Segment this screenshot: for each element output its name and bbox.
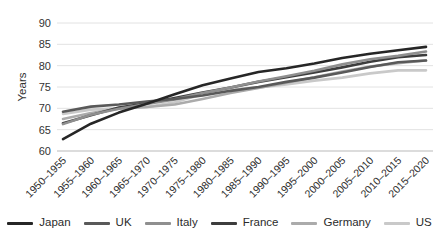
y-tick-label: 85 [39,38,51,50]
legend-line-swatch [291,222,317,225]
y-tick-label: 70 [39,102,51,114]
legend-line-swatch [211,222,237,225]
y-tick-label: 65 [39,124,51,136]
legend-line-swatch [384,222,410,225]
y-axis-title: Years [16,72,28,101]
legend-label: Japan [39,217,70,229]
legend-label: Italy [177,217,198,229]
legend-line-swatch [7,222,33,225]
legend-label: Germany [323,217,370,229]
legend-item-germany: Germany [291,217,370,229]
legend-item-japan: Japan [7,217,70,229]
legend-item-italy: Italy [145,217,198,229]
life-expectancy-line-chart: 60657075808590Years1950–19551955–1960196… [0,0,439,242]
series-line-uk [63,61,426,112]
legend-item-uk: UK [84,217,132,229]
legend-label: UK [116,217,132,229]
legend-item-us: US [384,217,432,229]
y-tick-label: 90 [39,17,51,29]
legend-label: France [243,217,279,229]
legend-line-swatch [145,222,171,225]
y-tick-label: 75 [39,81,51,93]
chart-canvas: 60657075808590Years1950–19551955–1960196… [0,0,439,213]
legend-label: US [416,217,432,229]
legend-line-swatch [84,222,110,225]
chart-legend: JapanUKItalyFranceGermanyUS [0,213,439,233]
y-tick-label: 80 [39,60,51,72]
y-tick-label: 60 [39,145,51,157]
legend-item-france: France [211,217,279,229]
